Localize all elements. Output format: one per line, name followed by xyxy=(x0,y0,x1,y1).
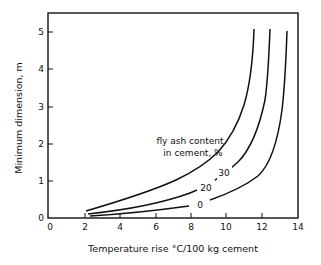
y-axis: 0 1 2 3 4 5 xyxy=(38,27,53,223)
curve-0-percent xyxy=(90,31,287,216)
x-tick-label: 2 xyxy=(82,222,88,232)
x-axis-title: Temperature rise °C/100 kg cement xyxy=(87,243,258,254)
y-axis-title: Minimum dimension, m xyxy=(13,62,24,174)
curve-30-percent xyxy=(86,29,254,211)
y-tick-label: 1 xyxy=(38,176,44,186)
y-tick-label: 3 xyxy=(38,102,44,112)
curve-label-0: 0 xyxy=(197,200,203,210)
y-tick-label: 0 xyxy=(38,213,44,223)
x-tick-label: 8 xyxy=(188,222,194,232)
curve-label-30: 30 xyxy=(218,168,230,178)
y-tick-label: 5 xyxy=(38,27,44,37)
annotation-line-1: fly ash content xyxy=(156,136,224,146)
curve-label-20: 20 xyxy=(200,183,212,193)
x-tick-label: 12 xyxy=(256,222,267,232)
y-tick-label: 4 xyxy=(38,64,44,74)
chart: 0 1 2 3 4 5 0 2 4 6 8 10 12 14 Temperatu… xyxy=(0,0,321,265)
x-tick-label: 4 xyxy=(117,222,123,232)
x-tick-label: 0 xyxy=(47,222,53,232)
x-tick-label: 6 xyxy=(153,222,159,232)
y-tick-label: 2 xyxy=(38,139,44,149)
annotation-line-2: in cement, % xyxy=(163,148,223,158)
plot-frame xyxy=(48,13,298,218)
x-axis: 0 2 4 6 8 10 12 14 xyxy=(47,213,304,232)
x-tick-label: 14 xyxy=(292,222,304,232)
x-tick-label: 10 xyxy=(220,222,232,232)
